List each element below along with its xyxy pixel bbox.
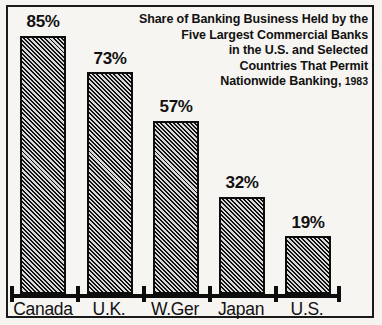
value-label-japan: 32% (219, 173, 265, 193)
value-label-uk: 73% (87, 49, 133, 69)
value-label-wger: 57% (153, 97, 199, 117)
bar-uk (87, 72, 133, 294)
value-label-us: 19% (285, 213, 331, 233)
bar-us (285, 236, 331, 294)
x-axis-line (10, 294, 341, 298)
category-label-japan: Japan (208, 299, 274, 320)
category-label-canada: Canada (10, 299, 76, 320)
category-label-uk: U.K. (76, 299, 142, 320)
plot-area: 85% 73% 57% 32% 19% Canada U.K. W.Ger Ja… (0, 0, 382, 325)
bar-canada (20, 36, 66, 294)
bar-wger (153, 121, 199, 294)
bar-japan (219, 197, 265, 294)
value-label-canada: 85% (20, 12, 66, 32)
category-label-us: U.S. (274, 299, 340, 320)
category-label-wger: W.Ger (142, 299, 208, 320)
chart-page: Share of Banking Business Held by the Fi… (0, 0, 382, 325)
